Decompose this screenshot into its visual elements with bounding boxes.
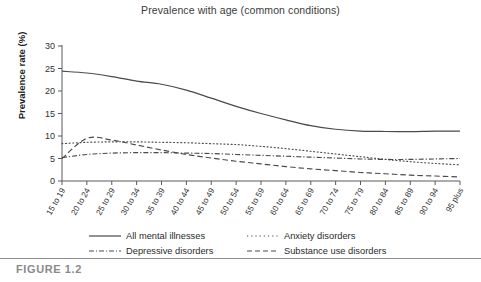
- caption-divider: [0, 258, 481, 259]
- y-axis-tick-label: 5: [50, 154, 55, 164]
- y-tick-labels-group: 051015202530: [45, 41, 55, 186]
- x-tick-labels-group: 15 to 1920 to 2425 to 2930 to 3435 to 39…: [45, 186, 466, 217]
- x-axis-tick-label: 30 to 34: [119, 186, 142, 217]
- legend-item-substance-use-disorders: Substance use disorders: [246, 246, 418, 256]
- chart-legend: All mental illnesses Anxiety disorders D…: [88, 228, 418, 258]
- figure-container: Prevalence with age (common conditions) …: [0, 0, 481, 282]
- series-line-depressive-disorders: [62, 153, 460, 160]
- x-axis-tick-label: 40 to 44: [169, 186, 192, 217]
- x-axis-tick-label: 50 to 54: [219, 186, 242, 217]
- x-axis-tick-label: 65 to 69: [293, 186, 316, 217]
- x-axis-tick-label: 85 to 89: [393, 186, 416, 217]
- y-axis-tick-label: 25: [45, 64, 55, 74]
- x-axis-tick-label: 60 to 64: [269, 186, 292, 217]
- chart-plot-area: 051015202530 15 to 1920 to 2425 to 2930 …: [0, 0, 481, 228]
- legend-item-anxiety-disorders: Anxiety disorders: [246, 231, 418, 241]
- x-axis-tick-label: 70 to 74: [318, 186, 341, 217]
- legend-swatch-dotted: [246, 231, 280, 241]
- x-axis-tick-label: 25 to 29: [94, 186, 117, 217]
- x-axis-tick-label: 20 to 24: [70, 186, 93, 217]
- legend-label: Anxiety disorders: [284, 231, 355, 241]
- series-line-all-mental-illnesses: [62, 71, 460, 131]
- x-axis-tick-label: 55 to 59: [244, 186, 267, 217]
- series-line-substance-use-disorders: [62, 137, 460, 177]
- y-axis-tick-label: 15: [45, 109, 55, 119]
- x-axis-tick-label: 95 plus: [444, 187, 465, 214]
- x-axis-tick-label: 15 to 19: [45, 186, 68, 217]
- x-axis-tick-label: 75 to 79: [343, 186, 366, 217]
- legend-label: Substance use disorders: [284, 246, 386, 256]
- figure-caption: FIGURE 1.2: [16, 263, 82, 275]
- series-line-anxiety-disorders: [62, 142, 460, 165]
- legend-item-depressive-disorders: Depressive disorders: [88, 246, 246, 256]
- legend-swatch-dashdot: [88, 246, 122, 256]
- legend-item-all-mental-illnesses: All mental illnesses: [88, 231, 246, 241]
- legend-swatch-dashed: [246, 246, 280, 256]
- y-axis-tick-label: 20: [45, 86, 55, 96]
- x-axis-tick-label: 35 to 39: [144, 186, 167, 217]
- legend-label: Depressive disorders: [126, 246, 213, 256]
- legend-label: All mental illnesses: [126, 231, 205, 241]
- y-axis-tick-label: 0: [50, 176, 55, 186]
- x-axis-tick-label: 90 to 94: [418, 186, 441, 217]
- legend-swatch-solid: [88, 231, 122, 241]
- y-axis-tick-label: 10: [45, 131, 55, 141]
- y-axis-tick-label: 30: [45, 41, 55, 51]
- series-group: [62, 71, 460, 177]
- x-axis-tick-label: 80 to 84: [368, 186, 391, 217]
- x-axis-tick-label: 45 to 49: [194, 186, 217, 217]
